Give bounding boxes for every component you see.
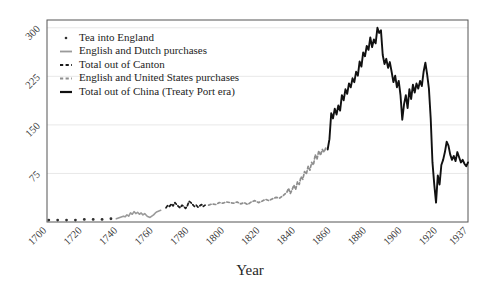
data-point — [47, 219, 50, 222]
tea-exports-line-chart: 1700172017401760178018001820184018601880… — [0, 0, 496, 288]
data-point — [56, 219, 59, 222]
legend-label: English and Dutch purchases — [79, 44, 207, 56]
data-point — [92, 218, 95, 221]
x-axis-title: Year — [236, 262, 264, 278]
legend-label: Total out of Canton — [79, 58, 165, 70]
legend-label: English and United States purchases — [79, 71, 239, 83]
legend-label: Total out of China (Treaty Port era) — [79, 85, 235, 98]
data-point — [110, 217, 113, 220]
legend-item-4: Total out of China (Treaty Port era) — [60, 85, 235, 98]
data-point — [83, 218, 86, 221]
data-point — [74, 219, 77, 222]
legend-marker-dot — [65, 37, 68, 40]
legend-item-0: Tea into England — [65, 31, 155, 43]
legend-item-3: English and United States purchases — [60, 71, 239, 83]
legend-item-1: English and Dutch purchases — [60, 44, 207, 56]
chart-container: 1700172017401760178018001820184018601880… — [0, 0, 496, 288]
data-point — [65, 219, 68, 222]
legend-label: Tea into England — [79, 31, 154, 43]
data-point — [101, 218, 104, 221]
